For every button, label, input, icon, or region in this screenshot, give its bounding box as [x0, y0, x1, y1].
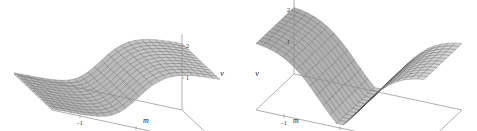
x-tick-label: -1 — [281, 119, 287, 127]
surface-plot-left-svg: 12v-101m — [0, 0, 238, 131]
z-tick-label: 1 — [287, 38, 291, 46]
z-axis-title: v — [255, 69, 259, 78]
surface-plot-right: 12v-101m — [238, 0, 477, 131]
z-tick-label: 2 — [287, 6, 291, 14]
x-tick-label: -1 — [77, 119, 83, 127]
figure-root: 12v-101m 12v-101m — [0, 0, 477, 131]
z-tick-label: 2 — [186, 42, 190, 50]
surface-plot-left: 12v-101m — [0, 0, 238, 131]
x-axis-title: m — [143, 116, 149, 125]
z-tick-label: 1 — [186, 74, 190, 82]
x-axis-title: m — [293, 116, 299, 125]
z-tick-mark — [182, 78, 185, 79]
surface-plot-right-svg: 12v-101m — [238, 0, 477, 131]
mesh-surface-right — [256, 8, 462, 125]
z-axis-title: v — [220, 69, 224, 78]
